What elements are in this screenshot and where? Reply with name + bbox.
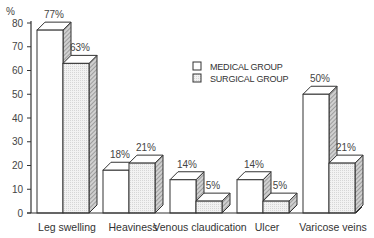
y-tick-label: 50 (12, 89, 24, 100)
bar-surgical: 63% (63, 42, 97, 213)
y-tick-label: 40 (12, 113, 24, 124)
y-tick-label: 30 (12, 136, 24, 147)
y-tick-label: 80 (12, 18, 24, 29)
bar-value-label: 21% (136, 142, 156, 153)
y-tick-label: 70 (12, 41, 24, 52)
bar-value-label: 14% (177, 159, 197, 170)
bar-value-label: 14% (244, 159, 264, 170)
legend-swatch-surgical (193, 74, 201, 82)
legend-label-surgical: SURGICAL GROUP (210, 74, 289, 84)
bar-group-heaviness: 18%21%Heaviness (103, 142, 163, 233)
bar-value-label: 21% (336, 142, 356, 153)
x-category-label: Ulcer (255, 221, 280, 233)
bar-group-varicose-veins: 50%21%Varicose veins (299, 73, 367, 233)
bar-value-label: 5% (273, 180, 288, 191)
bar-value-label: 5% (206, 180, 221, 191)
y-tick-label: 60 (12, 65, 24, 76)
bar-surgical: 21% (129, 142, 163, 213)
x-category-label: Leg swelling (38, 221, 96, 233)
x-category-label: Heaviness (108, 221, 157, 233)
y-tick-label: 20 (12, 160, 24, 171)
bar-value-label: 50% (310, 73, 330, 84)
bar-value-label: 77% (44, 9, 64, 20)
bar-group-leg-swelling: 77%63%Leg swelling (37, 9, 97, 233)
y-tick-label: 10 (12, 184, 24, 195)
y-axis-unit-label: % (6, 6, 15, 17)
legend-label-medical: MEDICAL GROUP (210, 62, 283, 72)
y-axis: 01020304050607080% (6, 6, 31, 219)
x-category-label: Varicose veins (299, 221, 367, 233)
bar-value-label: 63% (70, 42, 90, 53)
legend-swatch-medical (193, 62, 201, 70)
bar-chart: 01020304050607080% 77%63%Leg swelling18%… (0, 0, 374, 238)
legend: MEDICAL GROUPSURGICAL GROUP (193, 62, 289, 84)
y-tick-label: 0 (17, 208, 23, 219)
bars: 77%63%Leg swelling18%21%Heaviness14%5%Ve… (37, 9, 367, 233)
bar-value-label: 18% (110, 149, 130, 160)
x-category-label: Venous claudication (153, 221, 247, 233)
bar-group-venous-claudication: 14%5%Venous claudication (153, 159, 247, 233)
